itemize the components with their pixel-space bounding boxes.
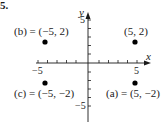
x-axis-label: x	[145, 50, 151, 62]
y-axis-arrow-icon	[86, 12, 91, 19]
x-tick-label-pos5: 5	[134, 65, 139, 76]
point-c	[42, 80, 47, 85]
point-a-label: (a) = (5, −2)	[106, 87, 160, 100]
point-5-2	[132, 39, 137, 44]
point-b	[42, 39, 47, 44]
y-tick-label-neg5: −5	[75, 100, 86, 111]
point-b-label: (b) = (−5, 2)	[14, 25, 69, 38]
y-tick-label-pos5: 5	[80, 14, 85, 25]
x-tick-label-neg5: −5	[32, 65, 43, 76]
coordinate-plane: 5. x y −5 5 5 −5	[0, 0, 161, 122]
point-5-2-label: (5, 2)	[124, 25, 148, 38]
problem-number: 5.	[0, 0, 9, 11]
point-a	[132, 80, 137, 85]
point-c-label: (c) = (−5, −2)	[14, 87, 74, 100]
